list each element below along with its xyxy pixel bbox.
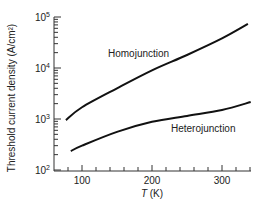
y-tick-label: 103 — [35, 113, 50, 125]
x-axis-title-unit: (K) — [147, 188, 163, 199]
homojunction-label: Homojunction — [108, 48, 169, 59]
axes: 102103104105100200300 — [35, 11, 251, 186]
x-tick-label: 100 — [74, 175, 91, 186]
chart: 102103104105100200300 Homojunction Heter… — [0, 0, 266, 210]
y-tick-label: 104 — [35, 62, 50, 74]
heterojunction-label: Heterojunction — [171, 123, 235, 134]
homojunction-line — [66, 24, 248, 120]
y-axis-title: Threshold current density (A/cm²) — [6, 24, 17, 172]
x-tick-label: 200 — [144, 175, 161, 186]
x-tick-label: 300 — [214, 175, 231, 186]
x-axis-title: T (K) — [141, 188, 163, 199]
y-tick-label: 105 — [35, 11, 50, 23]
y-tick-label: 102 — [35, 164, 50, 176]
